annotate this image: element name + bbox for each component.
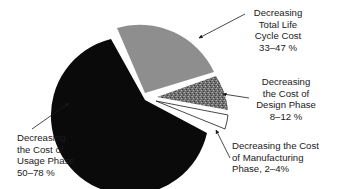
callout-manufacturing-phase: Decreasing the Cost of Manufacturing Pha…: [232, 140, 319, 175]
callout-line: 8–12 %: [248, 111, 324, 123]
callout-line: Cycle Cost: [244, 30, 312, 42]
callout-line: 50–78 %: [17, 167, 75, 179]
callout-line: 33–47 %: [244, 42, 312, 54]
callout-line: the Cost of: [248, 88, 324, 100]
callout-usage-phase: Decreasing the Cost of Usage Phase 50–78…: [17, 132, 75, 178]
callout-line: Decreasing: [244, 7, 312, 19]
arrow-design-phase: [223, 94, 249, 98]
callout-design-phase: Decreasing the Cost of Design Phase 8–12…: [248, 76, 324, 122]
callout-line: Decreasing: [248, 76, 324, 88]
callout-line: Usage Phase: [17, 155, 75, 167]
callout-line: the Cost of: [17, 144, 75, 156]
callout-total-life-cycle: Decreasing Total Life Cycle Cost 33–47 %: [244, 7, 312, 53]
callout-line: Decreasing: [17, 132, 75, 144]
arrow-total-life-cycle: [199, 14, 245, 38]
callout-line: Total Life: [244, 19, 312, 31]
callout-line: Design Phase: [248, 99, 324, 111]
callout-line: Phase, 2–4%: [232, 163, 319, 175]
arrow-manufacturing-phase: [216, 130, 230, 158]
callout-line: Decreasing the Cost: [232, 140, 319, 152]
callout-line: of Manufacturing: [232, 152, 319, 164]
